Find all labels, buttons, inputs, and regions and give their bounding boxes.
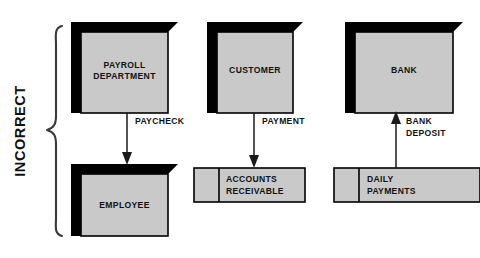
flow-payment: PAYMENT	[249, 113, 305, 168]
flow-payment-label-line1: PAYMENT	[262, 116, 305, 126]
data-store-accounts-receivable-label-line1: ACCOUNTS	[226, 174, 277, 184]
entity-bank-label-line1: BANK	[391, 65, 418, 75]
entity-payroll-department[interactable]: PAYROLL DEPARTMENT	[71, 22, 178, 113]
flow-bank-deposit-label-line1: BANK	[406, 116, 433, 126]
diagram-canvas: INCORRECT PAYROLL DEPARTMENT CUSTOMER BA…	[0, 0, 480, 258]
flow-paycheck: PAYCHECK	[122, 113, 185, 165]
incorrect-group-bracket: INCORRECT	[12, 26, 62, 236]
curly-brace-icon	[47, 26, 62, 236]
entity-employee-label-line1: EMPLOYEE	[99, 200, 150, 210]
entity-customer[interactable]: CUSTOMER	[207, 22, 303, 113]
entity-customer-label-line1: CUSTOMER	[229, 65, 281, 75]
data-store-daily-payments[interactable]: DAILY PAYMENTS	[334, 168, 480, 202]
flow-paycheck-label-line1: PAYCHECK	[135, 116, 185, 126]
group-label-incorrect: INCORRECT	[12, 85, 28, 177]
data-store-daily-payments-label-line1: DAILY	[367, 174, 394, 184]
data-store-accounts-receivable-label-line2: RECEIVABLE	[226, 186, 284, 196]
entity-employee[interactable]: EMPLOYEE	[71, 164, 178, 236]
entity-payroll-department-label-line2: DEPARTMENT	[93, 71, 156, 81]
data-store-daily-payments-face	[334, 168, 480, 202]
entity-payroll-department-label-line1: PAYROLL	[103, 60, 145, 70]
flow-payment-arrowhead-icon	[249, 155, 259, 168]
entity-bank[interactable]: BANK	[345, 22, 463, 113]
data-store-daily-payments-label-line2: PAYMENTS	[367, 186, 416, 196]
flow-bank-deposit: BANK DEPOSIT	[391, 111, 446, 168]
flow-paycheck-arrowhead-icon	[122, 152, 132, 165]
flow-bank-deposit-label-line2: DEPOSIT	[406, 128, 446, 138]
diagram-svg: INCORRECT PAYROLL DEPARTMENT CUSTOMER BA…	[0, 0, 480, 258]
data-store-accounts-receivable[interactable]: ACCOUNTS RECEIVABLE	[194, 168, 305, 202]
